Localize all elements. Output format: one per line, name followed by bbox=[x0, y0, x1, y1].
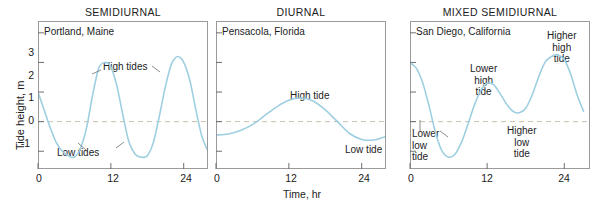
annotation-leader-1 bbox=[152, 66, 160, 72]
tide-curve-diurnal bbox=[216, 98, 386, 140]
annotation-leader-5 bbox=[440, 131, 448, 137]
annotation-leader-3 bbox=[116, 142, 124, 148]
tide-curve-mixed-semidiurnal bbox=[410, 55, 584, 157]
chart-vector-layer bbox=[0, 0, 601, 205]
tide-patterns-figure: Tide height, m 3 2 1 0 -1 SEMIDIURNAL Po… bbox=[0, 0, 601, 205]
